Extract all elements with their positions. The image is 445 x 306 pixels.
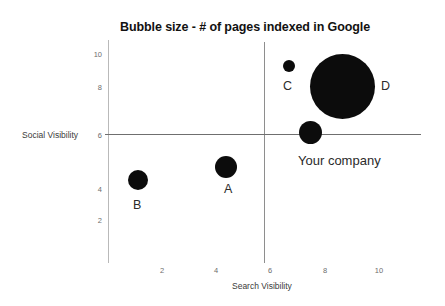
x-tick-label-10: 10 (370, 266, 388, 275)
chart-title: Bubble size - # of pages indexed in Goog… (120, 20, 430, 34)
x-tick-label-8: 8 (316, 266, 334, 275)
x-tick-label-4: 4 (207, 266, 225, 275)
y-tick-label-6: 6 (86, 131, 102, 140)
y-axis-line (108, 40, 109, 263)
x-tick-label-6: 6 (261, 266, 279, 275)
point-label-b: B (133, 198, 141, 212)
y-tick-label-2: 2 (86, 216, 102, 225)
bubble-your-company (299, 121, 322, 144)
quadrant-horizontal-divider (105, 134, 421, 135)
point-label-c: C (283, 79, 292, 93)
y-tick-label-8: 8 (86, 83, 102, 92)
bubble-d (310, 54, 375, 119)
point-label-d: D (381, 79, 390, 93)
x-tick-label-2: 2 (153, 266, 171, 275)
y-tick-label-10: 10 (86, 50, 102, 59)
y-axis-title: Social Visibility (22, 130, 78, 140)
bubble-b (128, 170, 148, 190)
quadrant-vertical-divider (264, 42, 265, 263)
point-label-a: A (224, 182, 232, 196)
bubble-c (283, 60, 295, 72)
your-company-annotation: Your company (298, 153, 381, 168)
bubble-a (215, 156, 237, 178)
bubble-chart: Bubble size - # of pages indexed in Goog… (0, 0, 445, 306)
x-axis-title: Search Visibility (232, 281, 292, 291)
y-tick-label-4: 4 (86, 185, 102, 194)
